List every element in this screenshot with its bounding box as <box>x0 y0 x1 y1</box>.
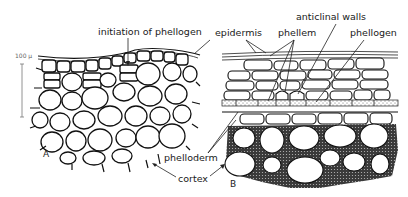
label-anticlinal-walls: anticlinal walls <box>296 11 366 22</box>
panel-b: B epidermis phellem anticlinal walls phe… <box>152 11 398 189</box>
phellem-cells <box>224 58 390 100</box>
panel-a: 100 μ <box>15 26 202 172</box>
label-cortex: cortex <box>178 173 208 184</box>
panel-label-b: B <box>230 179 236 189</box>
phelloderm-cells <box>222 112 398 124</box>
scale-bar: 100 μ <box>15 52 32 117</box>
label-phelloderm: phelloderm <box>164 152 218 163</box>
label-epidermis: epidermis <box>215 27 262 38</box>
cortex-cells-b <box>225 124 398 188</box>
label-initiation-of-phellogen: initiation of phellogen <box>98 26 202 37</box>
label-phellem: phellem <box>278 27 316 38</box>
panel-label-a: A <box>43 149 50 159</box>
label-phellogen: phellogen <box>350 27 397 38</box>
periderm-diagram: 100 μ <box>0 0 408 197</box>
phellogen-band <box>222 100 398 106</box>
scale-bar-label: 100 μ <box>15 52 32 60</box>
